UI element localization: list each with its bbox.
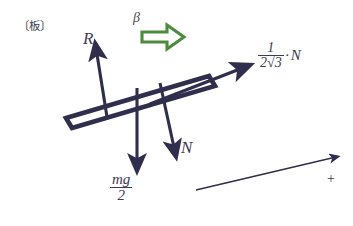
label-friction-expression: 1 2√3 · N <box>258 41 301 70</box>
friction-denominator: 2√3 <box>258 55 284 70</box>
friction-multiply-dot: · <box>285 48 290 63</box>
board-plank <box>66 76 215 128</box>
label-plus-axis: + <box>327 172 335 186</box>
friction-force-symbol: N <box>291 48 301 63</box>
positive-axis-arrow <box>196 157 336 190</box>
physics-free-body-diagram <box>0 0 353 226</box>
label-R: R <box>83 30 93 47</box>
board-outline <box>66 76 215 128</box>
vector-friction <box>150 67 245 104</box>
friction-numerator: 1 <box>258 41 284 55</box>
diagram-canvas: 〔板〕 R β N + mg 2 1 2√3 · N <box>0 0 353 226</box>
weight-numerator: mg <box>110 172 132 187</box>
friction-fraction: 1 2√3 <box>258 41 284 70</box>
beta-block-arrow <box>142 25 184 49</box>
label-N: N <box>181 139 192 156</box>
label-beta: β <box>133 11 140 25</box>
label-weight-fraction: mg 2 <box>110 172 132 203</box>
board-label: 〔板〕 <box>18 21 51 33</box>
weight-denominator: 2 <box>110 187 132 203</box>
